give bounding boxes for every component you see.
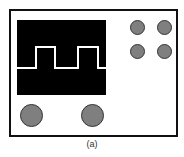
knob-small-bottom-left — [130, 44, 145, 59]
square-wave-trace — [0, 0, 184, 157]
knob-small-top-right — [157, 20, 172, 35]
knob-small-top-left — [130, 20, 145, 35]
knob-large-left — [20, 104, 43, 127]
figure-caption: (a) — [0, 139, 184, 149]
knob-large-right — [81, 104, 104, 127]
knob-small-bottom-right — [157, 44, 172, 59]
